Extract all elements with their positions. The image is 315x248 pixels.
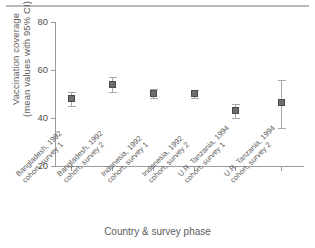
marker-2: [109, 81, 116, 88]
marker-1: [68, 95, 75, 102]
marker-4: [191, 90, 198, 97]
marker-6: [278, 99, 285, 106]
y-axis-title-line-1: Vaccination coverage: [10, 13, 21, 105]
y-tick-label-60: 60: [22, 64, 48, 75]
y-tick-label-80: 80: [22, 16, 48, 27]
y-tick-mark-40: [51, 118, 55, 119]
y-tick-label-40: 40: [22, 112, 48, 123]
error-bar-cap-high-5: [232, 104, 240, 105]
y-tick-mark-60: [51, 70, 55, 71]
error-bar-cap-low-4: [191, 98, 199, 99]
x-tick-mark-6: [281, 167, 282, 171]
marker-3: [150, 90, 157, 97]
y-tick-mark-20: [51, 166, 55, 167]
error-bar-cap-high-1: [68, 92, 76, 93]
error-bar-cap-high-2: [109, 77, 117, 78]
error-bar-cap-low-3: [150, 98, 158, 99]
error-bar-cap-high-6: [278, 80, 286, 81]
chart-figure: Vaccination coverage (mean values with 9…: [0, 0, 315, 248]
error-bar-cap-low-2: [109, 92, 117, 93]
x-axis-title: Country & survey phase: [0, 226, 315, 237]
error-bar-cap-low-1: [68, 106, 76, 107]
y-tick-mark-80: [51, 22, 55, 23]
